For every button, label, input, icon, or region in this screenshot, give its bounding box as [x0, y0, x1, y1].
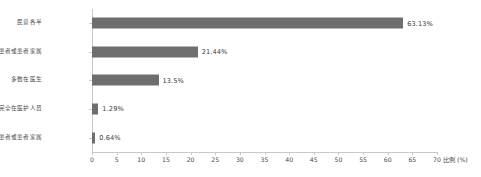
x-tick-mark [141, 152, 142, 155]
bar [92, 104, 98, 115]
bar [92, 75, 159, 86]
x-tick-mark [166, 152, 167, 155]
x-tick-mark [191, 152, 192, 155]
x-tick-mark [437, 152, 438, 155]
category-label: 完全在医护人员 [0, 106, 42, 112]
bar-value-label: 0.64% [99, 134, 120, 141]
bar-container: 63.13% [92, 18, 433, 29]
x-tick-label: 55 [359, 157, 367, 163]
bar-container: 1.29% [92, 104, 124, 115]
bar-chart: 民意各半63.13%多数在患者或患者家属21.44%多数在医生13.5%完全在医… [0, 0, 481, 177]
x-tick-mark [117, 152, 118, 155]
x-tick-label: 30 [236, 157, 244, 163]
x-tick-label: 10 [137, 157, 145, 163]
x-tick-mark [388, 152, 389, 155]
bar-container: 13.5% [92, 75, 184, 86]
x-tick-label: 65 [408, 157, 416, 163]
bar [92, 18, 403, 29]
x-tick-mark [314, 152, 315, 155]
bar-row: 完全在患者或患者家属0.64% [92, 123, 437, 152]
bar-container: 0.64% [92, 132, 121, 143]
category-label: 多数在医生 [0, 77, 42, 83]
bar-row: 民意各半63.13% [92, 9, 437, 38]
x-tick-label: 35 [261, 157, 269, 163]
bar-value-label: 63.13% [407, 20, 433, 27]
x-tick-label: 60 [384, 157, 392, 163]
bar-value-label: 13.5% [163, 77, 184, 84]
x-tick-mark [215, 152, 216, 155]
x-tick-mark [265, 152, 266, 155]
x-tick-label: 45 [310, 157, 318, 163]
x-tick-label: 15 [162, 157, 170, 163]
bar-value-label: 21.44% [202, 49, 228, 56]
x-tick-label: 5 [115, 157, 119, 163]
bar-container: 21.44% [92, 46, 227, 57]
category-label: 民意各半 [0, 20, 42, 26]
x-tick-mark [338, 152, 339, 155]
bar-value-label: 1.29% [102, 106, 123, 113]
x-tick-mark [412, 152, 413, 155]
x-tick-mark [289, 152, 290, 155]
x-tick-label: 20 [187, 157, 195, 163]
x-tick-label: 50 [334, 157, 342, 163]
category-label: 完全在患者或患者家属 [0, 135, 42, 141]
bar [92, 46, 198, 57]
x-tick-mark [240, 152, 241, 155]
bar-row: 多数在医生13.5% [92, 66, 437, 95]
x-tick-label: 25 [211, 157, 219, 163]
x-tick-mark [363, 152, 364, 155]
x-tick-label: 70 [433, 157, 441, 163]
bar [92, 132, 95, 143]
plot-area: 民意各半63.13%多数在患者或患者家属21.44%多数在医生13.5%完全在医… [92, 9, 437, 152]
bar-row: 完全在医护人员1.29% [92, 95, 437, 124]
x-tick-label: 40 [285, 157, 293, 163]
x-tick-mark [92, 152, 93, 155]
x-axis-title: 比例 (%) [443, 157, 468, 163]
x-tick-label: 0 [90, 157, 94, 163]
bar-row: 多数在患者或患者家属21.44% [92, 38, 437, 67]
category-label: 多数在患者或患者家属 [0, 49, 42, 55]
